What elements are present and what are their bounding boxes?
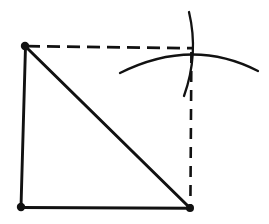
- vertex-dot-bottom-right: [186, 204, 194, 212]
- compass-arc-group: [120, 12, 258, 96]
- bottom-edge: [21, 208, 190, 209]
- vertex-dot-top-left: [21, 42, 29, 50]
- construction-drawing-svg: Geometric construction sketch: [0, 0, 269, 224]
- vertex-dot-bottom-left: [17, 203, 25, 211]
- geometric-construction-figure: Geometric construction sketch: [0, 0, 269, 224]
- dashed-construction-group: [27, 46, 192, 205]
- horizontal-compass-arc: [120, 54, 258, 73]
- diagonal-edge: [26, 47, 190, 208]
- left-edge: [21, 47, 26, 208]
- right-construction-line: [190, 52, 191, 205]
- top-construction-line: [27, 46, 192, 48]
- solid-edge-group: [21, 47, 190, 209]
